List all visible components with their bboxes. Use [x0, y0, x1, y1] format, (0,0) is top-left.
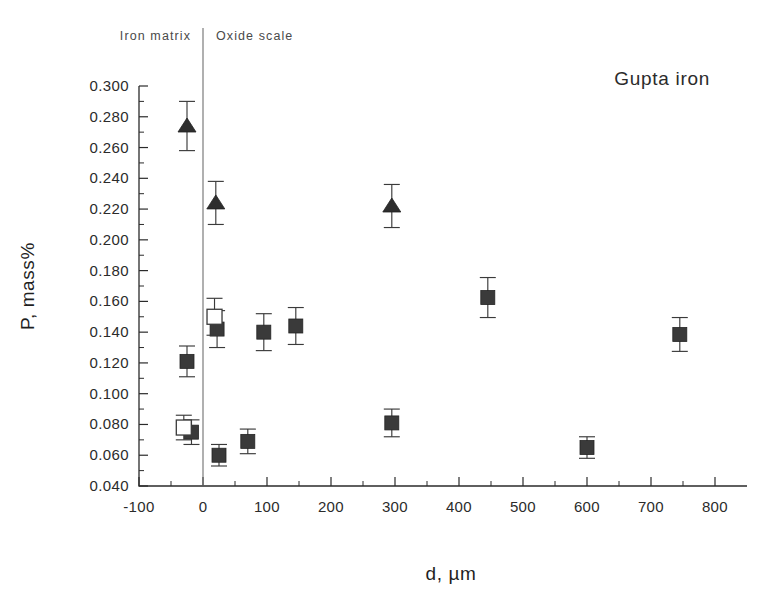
series-open-squares: [176, 298, 223, 440]
y-tick-label: 0.260: [89, 139, 129, 156]
data-point[interactable]: [480, 278, 496, 318]
series-triangles: [178, 101, 401, 227]
y-tick-label: 0.180: [89, 262, 129, 279]
data-point[interactable]: [240, 429, 256, 454]
series-filled-squares: [179, 278, 688, 466]
data-point[interactable]: [207, 181, 225, 224]
marker-triangle: [207, 195, 225, 209]
marker-square-filled: [212, 448, 226, 462]
x-tick-label: 800: [702, 498, 728, 515]
x-tick-label: 200: [318, 498, 344, 515]
x-tick-label: 100: [254, 498, 280, 515]
scatter-plot-canvas: -10001002003004005006007008000.0400.0600…: [0, 0, 773, 601]
y-tick-label: 0.160: [89, 292, 129, 309]
chart-annotation: Gupta iron: [614, 68, 710, 89]
marker-square-open: [207, 309, 222, 324]
x-tick-label: 0: [199, 498, 208, 515]
y-tick-label: 0.060: [89, 446, 129, 463]
y-tick-label: 0.200: [89, 231, 129, 248]
y-tick-label: 0.280: [89, 108, 129, 125]
marker-square-filled: [257, 325, 271, 339]
data-point[interactable]: [256, 314, 272, 351]
marker-square-filled: [580, 441, 594, 455]
region-label-iron-matrix: Iron matrix: [120, 29, 191, 43]
data-point[interactable]: [179, 346, 195, 377]
y-tick-label: 0.240: [89, 169, 129, 186]
x-axis-title: d, µm: [426, 563, 477, 584]
x-tick-label: 700: [638, 498, 664, 515]
data-point[interactable]: [384, 409, 400, 437]
region-label-oxide-scale: Oxide scale: [216, 29, 293, 43]
data-point[interactable]: [672, 318, 688, 352]
marker-square-filled: [385, 416, 399, 430]
y-tick-label: 0.120: [89, 354, 129, 371]
marker-triangle: [383, 198, 401, 212]
x-tick-label: 400: [446, 498, 472, 515]
y-tick-label: 0.300: [89, 77, 129, 94]
data-point[interactable]: [579, 437, 595, 459]
x-tick-label: 300: [382, 498, 408, 515]
data-point[interactable]: [178, 101, 196, 150]
marker-square-filled: [180, 354, 194, 368]
marker-square-open: [176, 420, 191, 435]
marker-square-filled: [481, 291, 495, 305]
marker-square-filled: [673, 327, 687, 341]
marker-square-filled: [241, 434, 255, 448]
data-point[interactable]: [288, 308, 304, 345]
y-tick-label: 0.140: [89, 323, 129, 340]
chart-figure: -10001002003004005006007008000.0400.0600…: [0, 0, 773, 601]
y-tick-label: 0.080: [89, 415, 129, 432]
x-tick-label: 600: [574, 498, 600, 515]
data-point[interactable]: [211, 444, 227, 466]
y-tick-label: 0.220: [89, 200, 129, 217]
y-tick-label: 0.100: [89, 385, 129, 402]
x-tick-label: 500: [510, 498, 536, 515]
y-tick-label: 0.040: [89, 477, 129, 494]
marker-square-filled: [289, 319, 303, 333]
x-tick-label: -100: [123, 498, 155, 515]
marker-triangle: [178, 118, 196, 132]
y-axis-title: P, mass%: [17, 242, 38, 330]
plot-axes: [139, 86, 747, 486]
data-point[interactable]: [383, 184, 401, 227]
